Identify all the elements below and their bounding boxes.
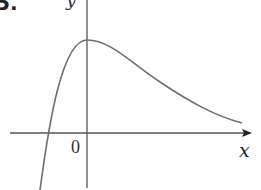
x-axis-label: x xyxy=(239,139,250,161)
graph-canvas xyxy=(0,0,261,190)
exercise-number: 5. xyxy=(0,0,18,15)
origin-label: 0 xyxy=(71,137,80,158)
y-axis-label: y xyxy=(66,0,76,10)
function-curve xyxy=(40,40,242,190)
function-graph: 5. y 0 x xyxy=(0,0,261,190)
